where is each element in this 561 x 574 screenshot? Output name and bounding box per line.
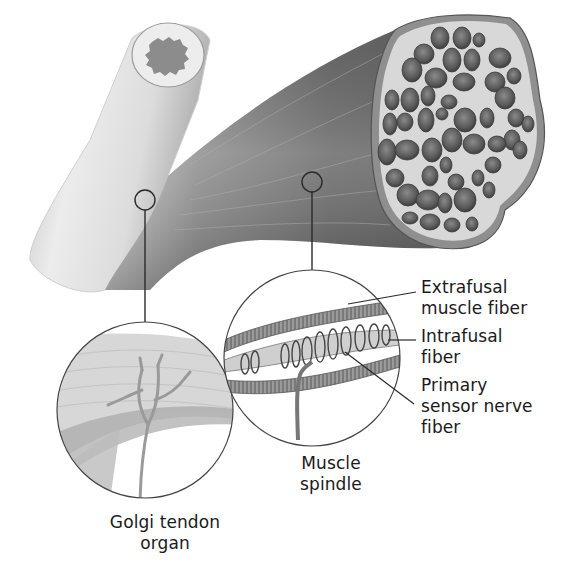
- extrafusal-label-line2: muscle fiber: [421, 298, 527, 319]
- spindle-inset: [224, 270, 400, 446]
- muscle-spindle-label: Muscle spindle: [276, 453, 386, 495]
- intrafusal-label: Intrafusal fiber: [421, 326, 503, 368]
- muscle-cross-section: [371, 15, 544, 249]
- golgi-label-line1: Golgi tendon: [70, 512, 260, 533]
- extrafusal-label-line1: Extrafusal: [421, 277, 527, 298]
- golgi-inset: [40, 322, 240, 510]
- primary-sensory-label-line1: Primary: [421, 375, 533, 396]
- golgi-tendon-organ-label: Golgi tendon organ: [70, 512, 260, 554]
- muscle-spindle-label-line2: spindle: [276, 474, 386, 495]
- intrafusal-label-line1: Intrafusal: [421, 326, 503, 347]
- golgi-label-line2: organ: [70, 533, 260, 554]
- primary-sensory-label: Primary sensor nerve fiber: [421, 375, 533, 438]
- extrafusal-label: Extrafusal muscle fiber: [421, 277, 527, 319]
- intrafusal-label-line2: fiber: [421, 347, 503, 368]
- primary-sensory-label-line3: fiber: [421, 417, 533, 438]
- primary-sensory-label-line2: sensor nerve: [421, 396, 533, 417]
- muscle-spindle-label-line1: Muscle: [276, 453, 386, 474]
